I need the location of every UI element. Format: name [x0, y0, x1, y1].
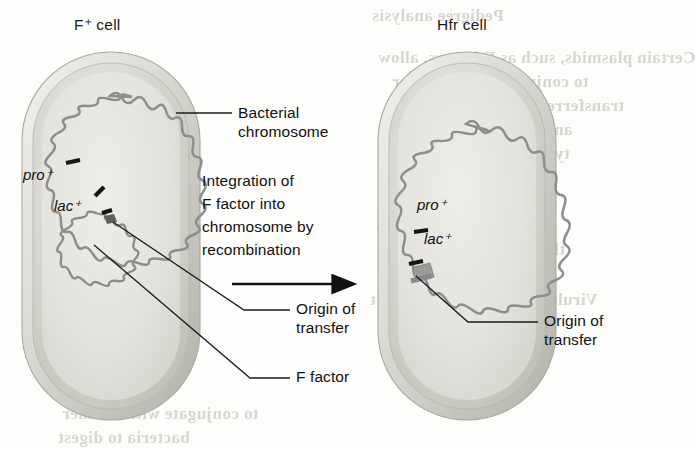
process-line-4: recombination: [202, 241, 301, 260]
right-cell-group: [378, 52, 570, 420]
right-gene-pro: pro⁺: [417, 196, 447, 214]
callout-bacterial-chromosome-line2: chromosome: [238, 123, 329, 142]
right-gene-lac: lac⁺: [424, 230, 451, 248]
left-pro-marker: [66, 160, 80, 163]
right-cell-cytoplasm: [398, 72, 536, 400]
callout-f-factor: F factor: [296, 368, 349, 387]
left-gene-pro: pro⁺: [23, 166, 53, 184]
callout-origin-of-transfer-right-line1: Origin of: [544, 312, 603, 331]
process-line-1: Integration of: [202, 172, 294, 191]
callout-origin-of-transfer-right-line2: transfer: [544, 331, 597, 350]
callout-bacterial-chromosome-line1: Bacterial: [238, 104, 299, 123]
right-cell-title: Hfr cell: [437, 16, 487, 34]
callout-origin-of-transfer-left-line2: transfer: [296, 319, 349, 338]
process-line-3: chromosome by: [202, 218, 314, 237]
left-cell-title: F⁺ cell: [74, 16, 120, 34]
process-line-2: F factor into: [202, 195, 285, 214]
left-gene-lac: lac⁺: [54, 197, 81, 215]
callout-origin-of-transfer-left-line1: Origin of: [296, 300, 355, 319]
